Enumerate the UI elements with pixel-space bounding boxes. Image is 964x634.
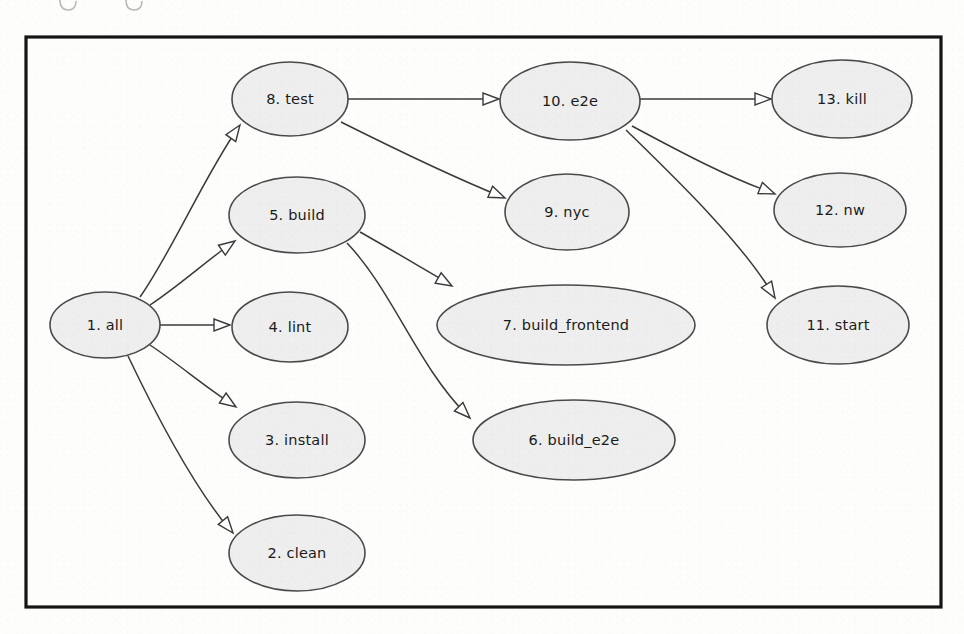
node-build-frontend[interactable]: 7. build_frontend: [437, 285, 695, 365]
node-test[interactable]: 8. test: [232, 62, 348, 136]
dependency-graph-canvas: 1. all 2. clean 3. install 4. lint 5. bu…: [0, 0, 964, 634]
node-label-nw: 12. nw: [815, 202, 865, 218]
node-label-build-frontend: 7. build_frontend: [503, 317, 630, 333]
page-artifact-marks: [60, 0, 142, 10]
node-label-all: 1. all: [87, 317, 124, 333]
edge-e2e-to-start: [626, 130, 780, 301]
node-e2e[interactable]: 10. e2e: [500, 62, 640, 140]
edge-all-to-build: [150, 236, 238, 305]
node-nw[interactable]: 12. nw: [774, 173, 906, 247]
node-lint[interactable]: 4. lint: [232, 292, 348, 362]
node-build-e2e[interactable]: 6. build_e2e: [473, 400, 675, 480]
edge-test-to-e2e: [348, 93, 499, 105]
node-label-lint: 4. lint: [269, 319, 312, 335]
node-label-nyc: 9. nyc: [544, 204, 589, 220]
node-kill[interactable]: 13. kill: [772, 60, 912, 138]
node-label-kill: 13. kill: [817, 91, 867, 107]
edge-all-to-clean: [128, 356, 238, 537]
edge-e2e-to-kill: [640, 93, 771, 105]
diagram-page: 1. all 2. clean 3. install 4. lint 5. bu…: [0, 0, 964, 634]
node-start[interactable]: 11. start: [767, 286, 909, 364]
node-install[interactable]: 3. install: [229, 402, 365, 478]
node-all[interactable]: 1. all: [50, 292, 160, 358]
node-label-build-e2e: 6. build_e2e: [529, 432, 620, 448]
edge-all-to-lint: [160, 319, 230, 331]
node-clean[interactable]: 2. clean: [229, 515, 365, 591]
node-label-test: 8. test: [266, 91, 314, 107]
node-build[interactable]: 5. build: [229, 177, 365, 253]
edge-all-to-install: [150, 345, 239, 412]
edge-e2e-to-nw: [632, 126, 777, 200]
node-label-build: 5. build: [269, 207, 325, 223]
node-label-install: 3. install: [265, 432, 329, 448]
node-label-start: 11. start: [806, 317, 869, 333]
edge-test-to-nyc: [341, 122, 507, 204]
node-label-e2e: 10. e2e: [542, 93, 598, 109]
edge-build-to-build-frontend: [360, 232, 455, 291]
node-nyc[interactable]: 9. nyc: [505, 174, 629, 250]
node-label-clean: 2. clean: [267, 545, 326, 561]
